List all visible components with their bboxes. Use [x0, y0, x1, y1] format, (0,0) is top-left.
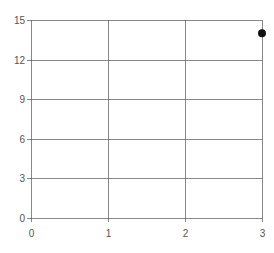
x-tick-label: 0 — [29, 228, 35, 239]
data-points — [258, 29, 266, 37]
x-tick-label: 2 — [183, 228, 189, 239]
y-tick-label: 9 — [19, 94, 25, 105]
x-axis: 0123 — [29, 228, 266, 239]
grid-lines — [27, 20, 263, 222]
y-tick-label: 15 — [14, 15, 26, 26]
y-tick-label: 0 — [19, 213, 25, 224]
y-tick-label: 6 — [19, 134, 25, 145]
data-point — [258, 29, 266, 37]
y-tick-label: 12 — [14, 55, 26, 66]
x-tick-label: 1 — [106, 228, 112, 239]
y-axis: 03691215 — [14, 15, 26, 224]
scatter-chart: 03691215 0123 — [0, 0, 274, 253]
y-tick-label: 3 — [19, 173, 25, 184]
x-tick-label: 3 — [260, 228, 266, 239]
